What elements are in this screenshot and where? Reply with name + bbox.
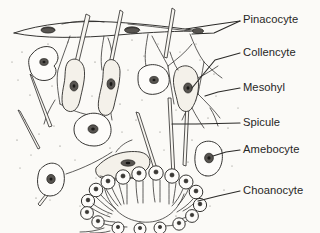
label-choanocyte[interactable]: Choanocyte [198,184,303,201]
amebocyte-labeled [195,141,223,176]
label-text-collencyte: Collencyte [243,46,296,58]
label-text-pinacocyte: Pinacocyte [243,13,298,25]
leader-line-spicule [172,123,240,124]
leader-line-mesohyl [205,88,240,96]
amebocyte [29,47,58,81]
spicule [18,110,40,149]
choanocyte [112,222,124,233]
amebocyte [138,65,169,95]
label-text-amebocyte: Amebocyte [243,143,299,155]
label-text-mesohyl: Mesohyl [243,81,285,93]
choanocyte [165,169,179,204]
spicule [168,98,175,176]
spicule [30,74,52,127]
choanocyte [154,222,166,233]
sponge-diagram: Pinacocyte Collencyte Mesohyl Spicule Am… [0,0,320,233]
amebocyte [62,59,85,111]
label-text-choanocyte: Choanocyte [243,184,303,196]
choanocyte [132,167,146,203]
label-amebocyte[interactable]: Amebocyte [213,143,299,156]
leader-line-collencyte [192,53,240,88]
figure-canvas: Pinacocyte Collencyte Mesohyl Spicule Am… [0,0,320,233]
spicule [183,104,189,166]
spicule [164,8,175,58]
collencyte [170,52,218,128]
choanocyte [116,170,130,204]
pinacoderm-layer [14,21,204,37]
spicule [109,10,123,66]
label-text-spicule: Spicule [243,116,280,128]
pinacocyte-nucleus [193,28,204,33]
choanocyte [134,223,146,233]
leader-line-choanocyte [198,191,240,201]
amebocyte [74,113,111,146]
choanocyte [149,166,163,202]
choanocyte [173,218,185,230]
label-mesohyl[interactable]: Mesohyl [205,81,285,96]
